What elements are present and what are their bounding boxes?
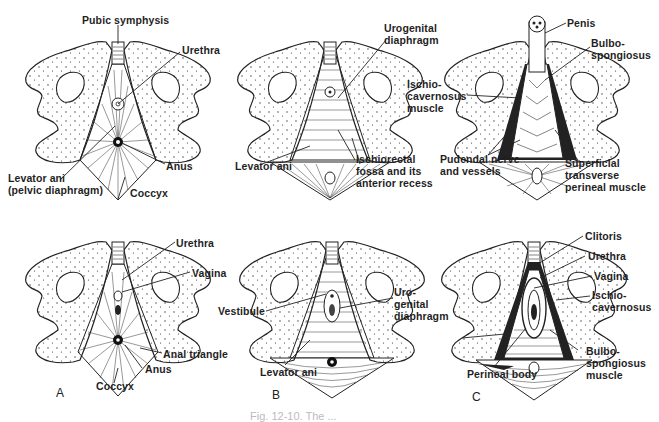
label-penis: Penis xyxy=(567,17,596,29)
label-pubic-symphysis: Pubic symphysis xyxy=(82,14,169,26)
label-superficial-transverse-perineal: Superficial transverse perineal muscle xyxy=(565,157,646,193)
label-levator-ani: Levator ani xyxy=(235,160,292,172)
label-urogenital-diaphragm: Urogenital diaphragm xyxy=(384,22,439,46)
label-anal-triangle: Anal triangle xyxy=(163,348,228,360)
female-panel-a-drawing xyxy=(26,242,211,396)
label-coccyx: Coccyx xyxy=(130,187,168,199)
label-perineal-body: Perineal body xyxy=(467,368,537,380)
label-urethra: Urethra xyxy=(182,44,220,56)
label-coccyx: Coccyx xyxy=(96,380,134,392)
figure-caption: Fig. 12-10. The ... xyxy=(250,410,337,422)
label-pudendal-nerve: Pudendal nerve and vessels xyxy=(440,153,520,177)
label-vagina: Vagina xyxy=(594,270,628,282)
panel-label-c: C xyxy=(472,390,481,404)
label-ischiocavernosus-muscle: Ischio- cavernosus muscle xyxy=(407,78,466,114)
label-vestibule: Vestibule xyxy=(218,305,265,317)
label-bulbospongiosus-muscle: Bulbo- spongiosus muscle xyxy=(586,345,646,381)
label-clitoris: Clitoris xyxy=(585,230,622,242)
label-ischiorectal-fossa: Ischiorectal fossa and its anterior rece… xyxy=(356,153,433,189)
label-levator-ani: Levator ani (pelvic diaphragm) xyxy=(8,172,103,196)
label-anus: Anus xyxy=(166,160,193,172)
panel-label-b: B xyxy=(272,388,280,402)
label-levator-ani: Levator ani xyxy=(260,366,317,378)
label-vagina: Vagina xyxy=(192,267,226,279)
label-bulbospongiosus: Bulbo- spongiosus xyxy=(591,37,651,61)
panel-label-a: A xyxy=(56,386,64,400)
label-urethra: Urethra xyxy=(588,250,626,262)
label-anus: Anus xyxy=(145,363,172,375)
label-urethra: Urethra xyxy=(176,237,214,249)
label-ischiocavernosus: Ischio- cavernosus xyxy=(592,289,651,313)
label-urogenital-diaphragm: Uro- genital diaphragm xyxy=(394,286,449,322)
